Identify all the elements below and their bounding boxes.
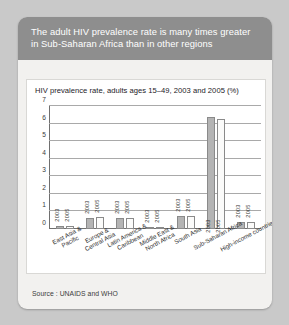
y-tick-label: 7 bbox=[42, 96, 46, 103]
bar-2003: 2003 bbox=[177, 216, 185, 229]
bar-year-label: 2005 bbox=[245, 204, 251, 217]
bar-year-label: 2005 bbox=[185, 199, 191, 212]
bars-layer: 2003200520032005200320052003200520032005… bbox=[50, 106, 261, 229]
plot-area: 01234567 2003200520032005200320052003200… bbox=[49, 106, 261, 229]
chart-subtitle: HIV prevalence rate, adults ages 15–49, … bbox=[27, 80, 265, 95]
source-note: Source : UNAIDS and WHO bbox=[32, 290, 118, 297]
bar-group: 20032005 bbox=[140, 106, 170, 229]
y-tick-label: 1 bbox=[42, 201, 46, 208]
bar-year-label: 2003 bbox=[54, 209, 60, 222]
bar-2003: 2003 bbox=[116, 218, 124, 229]
y-tick-label: 4 bbox=[42, 148, 46, 155]
figure-title: The adult HIV prevalence rate is many ti… bbox=[31, 26, 250, 49]
x-label-slot: High-income countries bbox=[231, 230, 261, 274]
y-tick-label: 2 bbox=[42, 183, 46, 190]
bar-year-label: 2003 bbox=[175, 198, 181, 211]
bar-year-label: 2005 bbox=[154, 209, 160, 222]
bar-group: 20032005 bbox=[231, 106, 261, 229]
bar-year-label: 2005 bbox=[64, 208, 70, 221]
bar-year-label: 2003 bbox=[84, 201, 90, 214]
chart-panel: HIV prevalence rate, adults ages 15–49, … bbox=[26, 79, 266, 274]
x-label-slot: Europe &Central Asia bbox=[80, 230, 110, 274]
bar-year-label: 2005 bbox=[124, 201, 130, 214]
bar-2003: 2003 bbox=[86, 218, 94, 229]
x-axis-labels: East Asia &PacificEurope &Central AsiaLa… bbox=[50, 230, 261, 274]
bar-group: 20032005 bbox=[50, 106, 80, 229]
bar-year-label: 2003 bbox=[114, 201, 120, 214]
y-tick-label: 6 bbox=[42, 113, 46, 120]
bar-group: 20032005 bbox=[201, 106, 231, 229]
x-label-slot: South Asia bbox=[171, 230, 201, 274]
bar-2003: 2003 bbox=[56, 226, 64, 229]
y-tick-label: 3 bbox=[42, 166, 46, 173]
x-label-slot: Latin America &Caribbean bbox=[110, 230, 140, 274]
card-header: The adult HIV prevalence rate is many ti… bbox=[18, 17, 272, 60]
y-tick-label: 0 bbox=[42, 219, 46, 226]
bar-group: 20032005 bbox=[80, 106, 110, 229]
bar-2005: 2005 bbox=[217, 119, 225, 229]
bar-year-label: 2003 bbox=[235, 204, 241, 217]
x-label-slot: East Asia &Pacific bbox=[50, 230, 80, 274]
x-label-slot: Middle East &North Africa bbox=[140, 230, 170, 274]
bar-year-label: 2005 bbox=[94, 199, 100, 212]
bar-group: 20032005 bbox=[110, 106, 140, 229]
y-tick-label: 5 bbox=[42, 131, 46, 138]
x-label-slot: Sub-Saharan Africa bbox=[201, 230, 231, 274]
bar-year-label: 2003 bbox=[144, 209, 150, 222]
figure-card: The adult HIV prevalence rate is many ti… bbox=[18, 17, 272, 309]
bar-group: 20032005 bbox=[171, 106, 201, 229]
bar-2003: 2003 bbox=[207, 117, 215, 229]
